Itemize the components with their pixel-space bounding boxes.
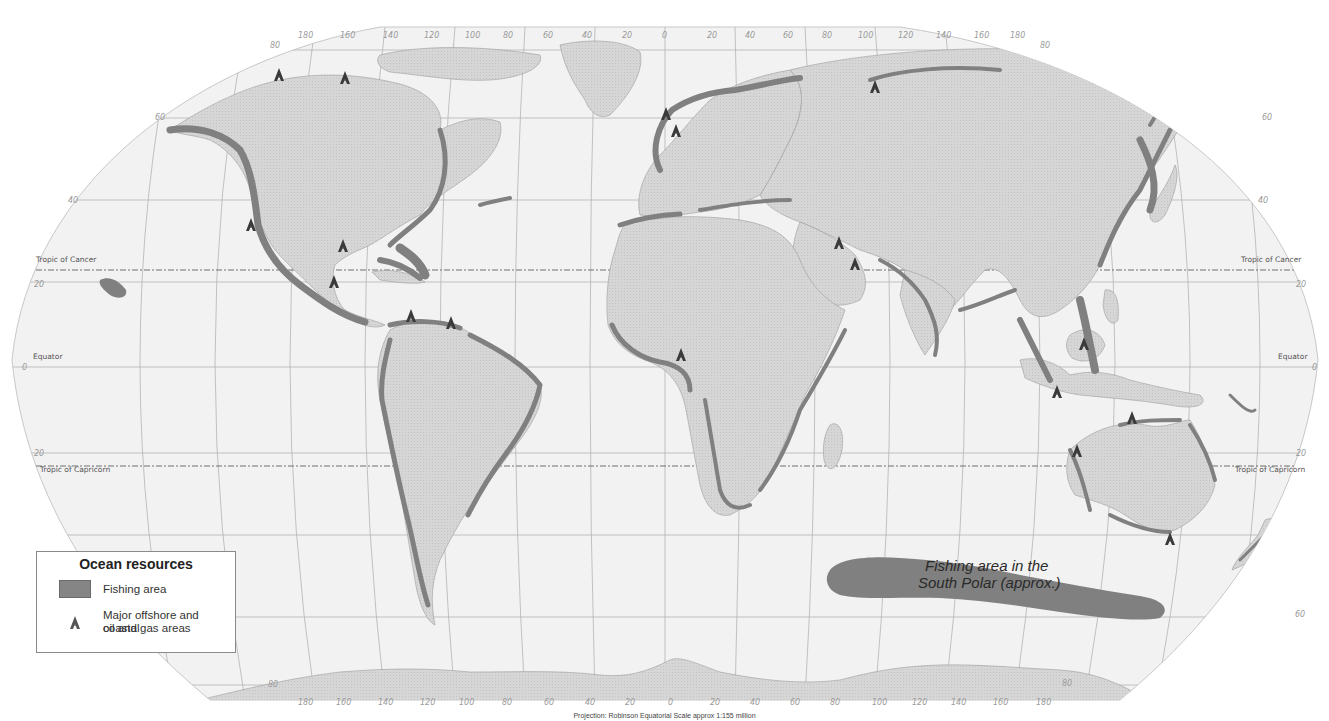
tropic-of-cancer-label-right: Tropic of Cancer: [1240, 255, 1302, 264]
svg-text:20: 20: [707, 31, 717, 40]
equator-label-right: Equator: [1278, 352, 1308, 361]
svg-text:100: 100: [858, 31, 873, 40]
svg-text:60: 60: [1262, 113, 1272, 122]
svg-text:0: 0: [662, 31, 667, 40]
svg-text:0: 0: [1312, 363, 1317, 372]
svg-text:100: 100: [872, 698, 887, 707]
svg-text:160: 160: [974, 31, 989, 40]
svg-text:140: 140: [383, 31, 398, 40]
svg-text:80: 80: [1040, 41, 1050, 50]
svg-text:60: 60: [783, 31, 793, 40]
svg-text:120: 120: [420, 698, 435, 707]
svg-text:20: 20: [625, 698, 635, 707]
svg-text:60: 60: [544, 698, 554, 707]
svg-text:40: 40: [745, 31, 755, 40]
svg-text:180: 180: [298, 698, 313, 707]
legend-fishing-label: Fishing area: [103, 583, 166, 596]
svg-text:60: 60: [155, 113, 165, 122]
svg-text:140: 140: [936, 31, 951, 40]
oil-rig-icon: [69, 616, 81, 630]
tropic-of-capricorn-label-right: Tropic of Capricorn: [1234, 465, 1305, 474]
svg-text:180: 180: [1010, 31, 1025, 40]
svg-text:100: 100: [459, 698, 474, 707]
projection-caption: Projection: Robinson Equatorial Scale ap…: [0, 712, 1329, 719]
svg-text:40: 40: [582, 31, 592, 40]
svg-text:80: 80: [830, 698, 840, 707]
svg-text:40: 40: [585, 698, 595, 707]
tropic-of-cancer-label-left: Tropic of Cancer: [35, 255, 97, 264]
svg-text:180: 180: [298, 31, 313, 40]
svg-text:20: 20: [34, 280, 44, 289]
svg-text:40: 40: [1258, 196, 1268, 205]
svg-text:120: 120: [424, 31, 439, 40]
equator-label-left: Equator: [33, 352, 63, 361]
tropic-of-capricorn-label-left: Tropic of Capricorn: [39, 465, 110, 474]
svg-text:100: 100: [465, 31, 480, 40]
legend-oil-gas-label-line2: oil and gas areas: [103, 622, 191, 635]
map-legend: Ocean resources Fishing area Major offsh…: [36, 551, 236, 653]
svg-text:80: 80: [502, 698, 512, 707]
svg-text:20: 20: [34, 449, 44, 458]
svg-text:80: 80: [822, 31, 832, 40]
legend-title: Ocean resources: [37, 556, 235, 572]
svg-text:80: 80: [1062, 679, 1072, 688]
south-polar-label-line2: South Polar (approx.): [918, 574, 1061, 591]
svg-text:60: 60: [790, 698, 800, 707]
svg-text:40: 40: [750, 698, 760, 707]
svg-text:160: 160: [993, 698, 1008, 707]
svg-text:80: 80: [268, 680, 278, 689]
svg-text:0: 0: [22, 363, 27, 372]
svg-text:80: 80: [270, 41, 280, 50]
svg-text:120: 120: [912, 698, 927, 707]
svg-text:80: 80: [503, 31, 513, 40]
svg-text:20: 20: [1296, 280, 1306, 289]
svg-text:60: 60: [1295, 610, 1305, 619]
svg-text:180: 180: [1036, 698, 1051, 707]
svg-text:160: 160: [340, 31, 355, 40]
svg-text:60: 60: [543, 31, 553, 40]
svg-text:20: 20: [622, 31, 632, 40]
svg-text:160: 160: [336, 698, 351, 707]
south-polar-label-line1: Fishing area in the: [925, 557, 1048, 574]
svg-text:120: 120: [898, 31, 913, 40]
svg-text:140: 140: [378, 698, 393, 707]
svg-text:0: 0: [668, 698, 673, 707]
svg-text:40: 40: [68, 196, 78, 205]
svg-text:20: 20: [1296, 449, 1306, 458]
fishing-area-swatch: [59, 580, 91, 598]
svg-text:20: 20: [710, 698, 720, 707]
svg-text:140: 140: [951, 698, 966, 707]
